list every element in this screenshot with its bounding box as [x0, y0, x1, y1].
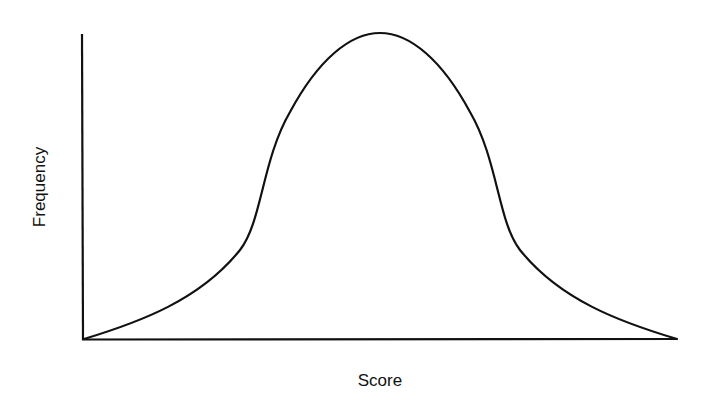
- x-axis: [82, 339, 677, 340]
- x-axis-label: Score: [358, 371, 402, 390]
- y-axis-label: Frequency: [30, 146, 49, 227]
- y-axis: [82, 34, 83, 340]
- bell-curve-chart: Frequency Score: [0, 0, 702, 411]
- distribution-curve: [84, 33, 677, 339]
